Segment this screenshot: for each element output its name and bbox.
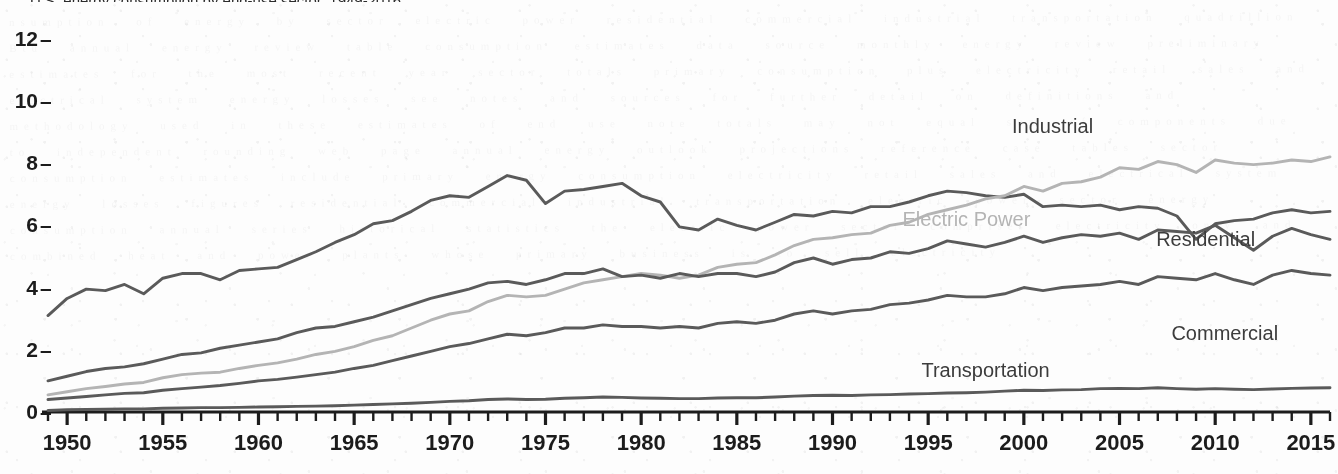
x-axis-tick-label: 1965 [330, 430, 379, 456]
line-chart-plot [0, 0, 1338, 474]
y-axis-tick-label: 10 [0, 89, 38, 113]
x-axis-tick-label: 1950 [43, 430, 92, 456]
series-label-electric-power: Electric Power [903, 208, 1031, 231]
y-axis-tick-mark: – [40, 151, 52, 175]
x-axis-tick-label: 1955 [138, 430, 187, 456]
x-axis-tick-label: 1970 [425, 430, 474, 456]
y-axis-tick-mark: – [40, 276, 52, 300]
y-axis-tick-mark: – [40, 213, 52, 237]
axis-group [42, 412, 1330, 425]
x-axis-tick-label: 2000 [999, 430, 1048, 456]
y-axis-tick-mark: – [40, 89, 52, 113]
series-group [48, 157, 1330, 411]
x-axis-tick-label: 2015 [1286, 430, 1335, 456]
x-axis-tick-label: 1960 [234, 430, 283, 456]
y-axis-tick-label: 4 [0, 276, 38, 300]
chart-page: nsumption of energy by sector electric p… [0, 0, 1338, 474]
series-label-transportation: Transportation [921, 359, 1049, 382]
x-axis-tick-label: 1990 [808, 430, 857, 456]
x-axis-tick-label: 1975 [521, 430, 570, 456]
series-label-residential: Residential [1156, 228, 1255, 251]
x-axis-tick-label: 1995 [904, 430, 953, 456]
series-line-residential [48, 225, 1330, 381]
series-line-industrial [48, 176, 1330, 316]
series-line-commercial [48, 270, 1330, 399]
y-axis-tick-label: 12 [0, 27, 38, 51]
series-line-transportation [48, 388, 1330, 411]
y-axis-tick-mark: – [40, 27, 52, 51]
x-axis-tick-label: 2010 [1191, 430, 1240, 456]
y-axis-tick-label: 0 [0, 400, 38, 424]
y-axis-tick-mark: – [40, 400, 52, 424]
series-label-commercial: Commercial [1171, 321, 1278, 344]
y-axis-tick-label: 8 [0, 151, 38, 175]
y-axis-tick-label: 2 [0, 338, 38, 362]
x-axis-tick-label: 2005 [1095, 430, 1144, 456]
x-axis-tick-label: 1985 [712, 430, 761, 456]
series-label-industrial: Industrial [1012, 114, 1093, 137]
y-axis-tick-label: 6 [0, 213, 38, 237]
y-axis-tick-mark: – [40, 338, 52, 362]
x-axis-tick-label: 1980 [617, 430, 666, 456]
